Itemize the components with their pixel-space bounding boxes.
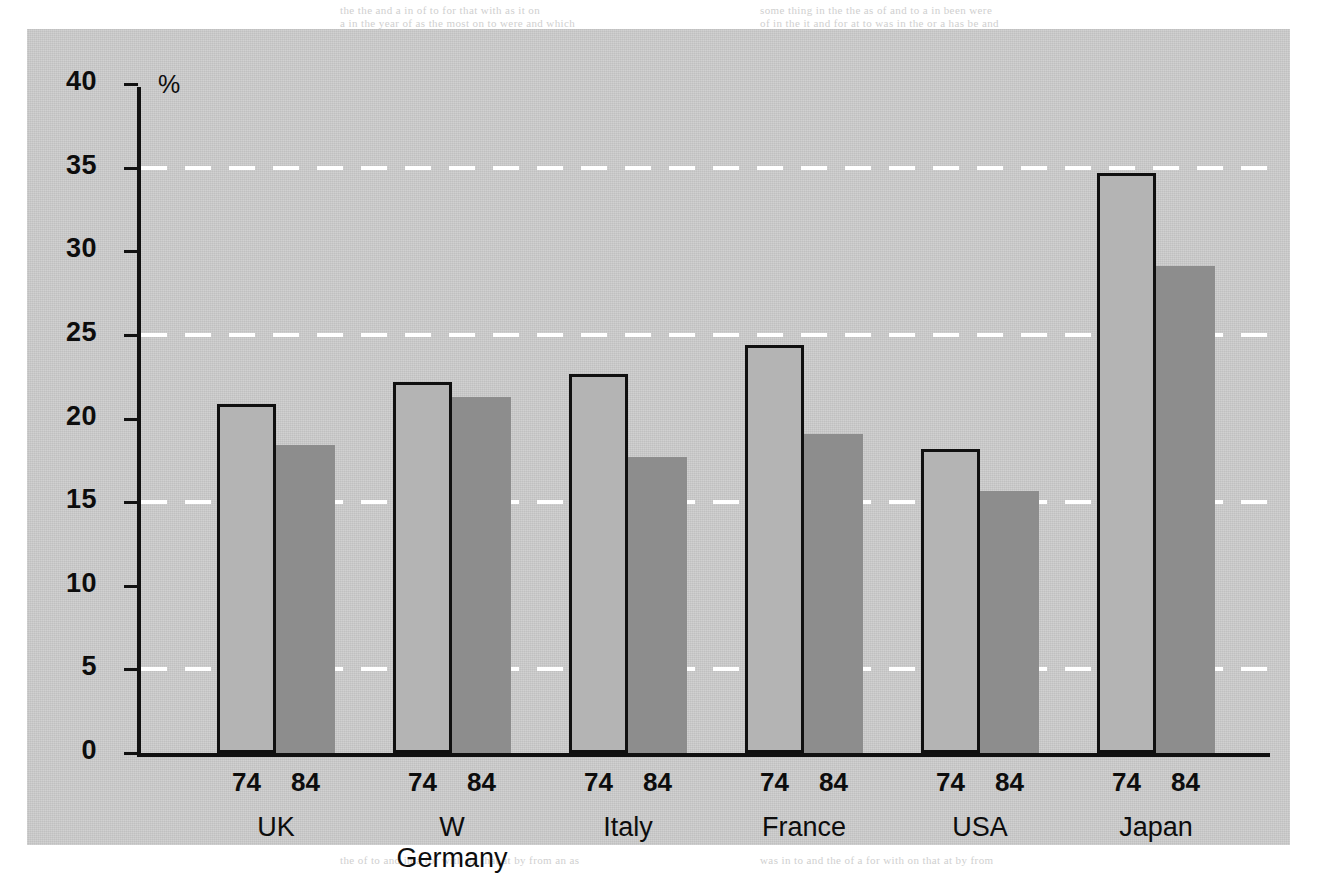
y-axis-tick	[124, 83, 138, 86]
x-axis-line	[137, 753, 1270, 757]
x-axis-country-label: USA	[921, 812, 1039, 843]
x-axis-year-label: 74	[569, 767, 628, 798]
y-axis-unit-label: %	[158, 70, 180, 99]
y-axis-tick-label: 30	[66, 233, 97, 264]
bleed-line: was in to and the of a for with on that …	[760, 854, 994, 866]
y-axis-tick-label: 15	[66, 484, 97, 515]
bar-italy-74	[569, 374, 628, 753]
y-axis-tick-label: 40	[66, 66, 97, 97]
y-axis-tick	[124, 585, 138, 588]
y-axis-tick	[124, 752, 138, 755]
x-axis-year-label: 84	[804, 767, 863, 798]
x-axis-year-label: 84	[452, 767, 511, 798]
bar-uk-74	[217, 404, 276, 753]
y-axis-line	[137, 87, 141, 757]
gridline	[141, 166, 1269, 170]
x-axis-year-label: 74	[745, 767, 804, 798]
bar-w-germany-74	[393, 382, 452, 753]
bar-chart-plot-area: % 05101520253035407484UK7484W Germany748…	[27, 29, 1290, 845]
x-axis-year-label: 84	[628, 767, 687, 798]
bar-usa-74	[921, 449, 980, 753]
x-axis-year-label: 74	[217, 767, 276, 798]
x-axis-year-label: 84	[276, 767, 335, 798]
y-axis-tick	[124, 250, 138, 253]
bar-uk-84	[276, 445, 335, 753]
chart-panel: % 05101520253035407484UK7484W Germany748…	[27, 29, 1290, 845]
x-axis-year-label: 74	[921, 767, 980, 798]
y-axis-tick-label: 20	[66, 401, 97, 432]
y-axis-tick-label: 0	[81, 735, 97, 766]
x-axis-country-label: Japan	[1097, 812, 1215, 843]
y-axis-tick-label: 5	[81, 651, 97, 682]
y-axis-tick	[124, 501, 138, 504]
bar-japan-84	[1156, 266, 1215, 753]
bar-italy-84	[628, 457, 687, 753]
x-axis-country-label: France	[745, 812, 863, 843]
x-axis-country-label: W Germany	[393, 812, 511, 874]
y-axis-tick	[124, 334, 138, 337]
bar-japan-74	[1097, 173, 1156, 753]
bar-w-germany-84	[452, 397, 511, 753]
y-axis-tick	[124, 167, 138, 170]
x-axis-year-label: 74	[1097, 767, 1156, 798]
x-axis-year-label: 74	[393, 767, 452, 798]
x-axis-country-label: Italy	[569, 812, 687, 843]
y-axis-tick-label: 25	[66, 317, 97, 348]
bleed-line: a in the year of as the most on to were …	[340, 17, 575, 29]
bar-usa-84	[980, 491, 1039, 754]
bar-france-74	[745, 345, 804, 753]
bleed-line: some thing in the the as of and to a in …	[760, 4, 992, 16]
bar-france-84	[804, 434, 863, 753]
y-axis-tick-label: 10	[66, 568, 97, 599]
x-axis-year-label: 84	[980, 767, 1039, 798]
x-axis-country-label: UK	[217, 812, 335, 843]
bleed-line: of in the it and for at to was in the or…	[760, 17, 999, 29]
bleed-line: the the and a in of to for that with as …	[340, 4, 540, 16]
x-axis-year-label: 84	[1156, 767, 1215, 798]
y-axis-tick-label: 35	[66, 150, 97, 181]
y-axis-tick	[124, 418, 138, 421]
y-axis-tick	[124, 668, 138, 671]
